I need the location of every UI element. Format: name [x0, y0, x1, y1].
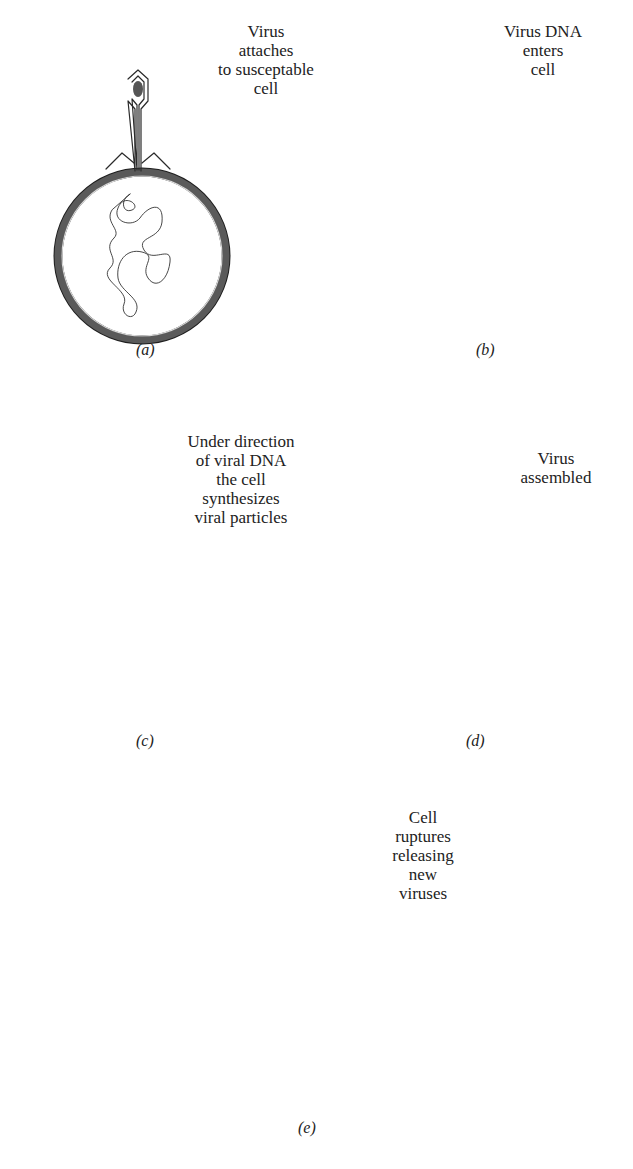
bacteriophage-icon [106, 70, 170, 171]
panel-b-caption: (b) [476, 341, 495, 359]
panel-d-caption: (d) [466, 732, 485, 750]
panel-c-caption: (c) [136, 732, 154, 750]
dna-strand-icon [107, 194, 170, 317]
bacterial-cell-icon [58, 172, 226, 340]
panel-a [58, 70, 226, 340]
panel-a-caption: (a) [136, 341, 155, 359]
panel-b-label: Virus DNA enters cell [488, 22, 598, 79]
panel-e-caption: (e) [298, 1119, 316, 1137]
panel-d-label: Virus assembled [508, 449, 604, 487]
panel-c-label: Under direction of viral DNA the cell sy… [176, 432, 306, 527]
panel-a-label: Virus attaches to susceptable cell [196, 22, 336, 98]
panel-e-label: Cell ruptures releasing new viruses [378, 808, 468, 903]
lytic-cycle-diagram [0, 0, 633, 1169]
